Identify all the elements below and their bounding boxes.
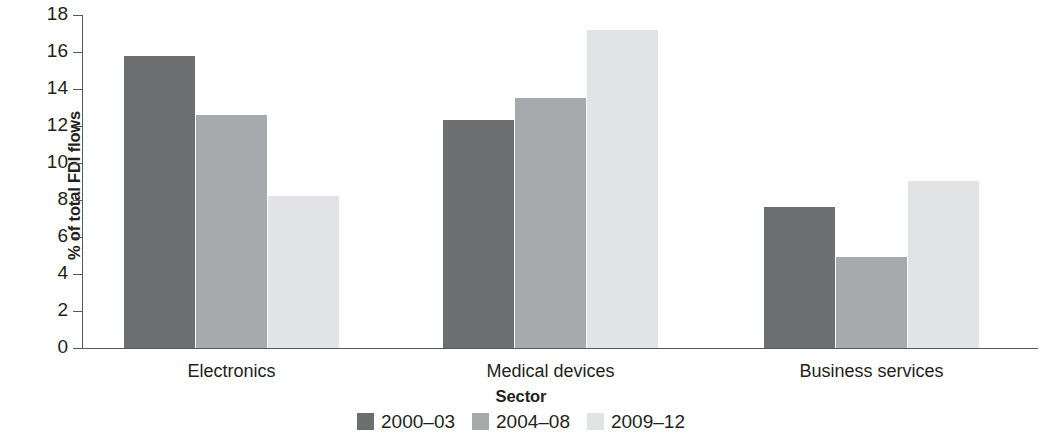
y-axis-tick-label: 12 [20, 115, 68, 134]
y-axis-tick-mark [73, 311, 82, 312]
y-axis-tick-mark [73, 89, 82, 90]
legend-item[interactable]: 2004–08 [472, 412, 570, 431]
y-axis-tick-label: 6 [20, 226, 68, 245]
bar [443, 120, 514, 348]
bar [764, 207, 835, 348]
bar [515, 98, 586, 348]
legend-item[interactable]: 2000–03 [357, 412, 455, 431]
bar [268, 196, 339, 348]
y-axis-tick-label: 0 [20, 337, 68, 356]
x-axis-line [73, 348, 1038, 349]
legend-swatch-icon [472, 413, 489, 430]
legend-item[interactable]: 2009–12 [587, 412, 685, 431]
y-axis-tick-label: 4 [20, 263, 68, 282]
y-axis-tick-label: 14 [20, 78, 68, 97]
bar-chart: % of total FDI flows 024681012141618 Ele… [0, 0, 1042, 442]
y-axis-tick-label: 18 [20, 4, 68, 23]
y-axis-tick-mark [73, 274, 82, 275]
legend-label: 2000–03 [381, 412, 455, 431]
legend-swatch-icon [587, 413, 604, 430]
y-axis-tick-label: 10 [20, 152, 68, 171]
y-axis-tick-label: 16 [20, 41, 68, 60]
bar-series-group [82, 15, 1038, 348]
y-axis-tick-mark [73, 348, 82, 349]
legend-label: 2004–08 [496, 412, 570, 431]
x-axis-title: Sector [0, 387, 1042, 406]
bar [836, 257, 907, 348]
legend-label: 2009–12 [611, 412, 685, 431]
bar [908, 181, 979, 348]
y-axis-tick-mark [73, 126, 82, 127]
y-axis-tick-mark [73, 200, 82, 201]
legend: 2000–032004–082009–12 [0, 412, 1042, 431]
legend-swatch-icon [357, 413, 374, 430]
y-axis-tick-mark [73, 52, 82, 53]
y-axis-tick-mark [73, 237, 82, 238]
bar [587, 30, 658, 348]
y-axis-tick-mark [73, 15, 82, 16]
x-axis-category-label: Medical devices [401, 361, 701, 382]
bar [196, 115, 267, 348]
plot-area: 024681012141618 [82, 15, 1038, 348]
y-axis-tick-label: 2 [20, 300, 68, 319]
y-axis-tick-label: 8 [20, 189, 68, 208]
x-axis-category-label: Electronics [82, 361, 382, 382]
x-axis-category-label: Business services [722, 361, 1022, 382]
y-axis-tick-mark [73, 163, 82, 164]
bar [124, 56, 195, 348]
